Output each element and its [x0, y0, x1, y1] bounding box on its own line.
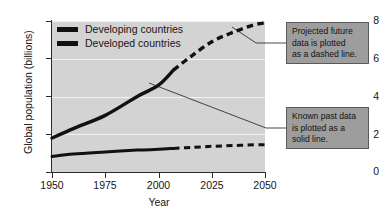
annotation-projected-line-2: data is plotted: [292, 38, 363, 50]
x-axis-title: Year: [52, 196, 266, 208]
annotation-known-past: Known past data is plotted as a solid li…: [286, 107, 369, 149]
y-tick-4: [46, 96, 52, 97]
x-tick-2025: [212, 172, 213, 178]
x-tick-label-2050: 2050: [242, 180, 288, 191]
annotation-known-line-1: Known past data: [292, 111, 363, 123]
gridline-4: [52, 97, 265, 98]
legend-swatch-developed: [57, 41, 78, 46]
legend-swatch-developing: [57, 27, 78, 32]
legend-item-developed: Developed countries: [57, 36, 217, 50]
x-tick-label-2025: 2025: [189, 180, 235, 191]
legend-label-developed: Developed countries: [85, 37, 181, 49]
y-tick-label-4: 4: [337, 91, 379, 102]
x-tick-2050: [265, 172, 266, 178]
y-axis-title: Global population (billions): [22, 12, 34, 172]
y-tick-8: [46, 21, 52, 22]
population-line-chart: Global population (billions) 8 6 4 2 0 1…: [0, 0, 379, 217]
x-tick-1950: [52, 172, 53, 178]
y-tick-2: [46, 134, 52, 135]
gridline-6: [52, 59, 265, 60]
x-tick-label-2000: 2000: [136, 180, 182, 191]
legend-label-developing: Developing countries: [85, 23, 183, 35]
y-tick-6: [46, 58, 52, 59]
annotation-known-line-3: solid line.: [292, 134, 363, 146]
legend: Developing countries Developed countries: [57, 22, 217, 50]
x-tick-2000: [159, 172, 160, 178]
annotation-projected-line-3: as a dashed line.: [292, 49, 363, 61]
annotation-projected-line-1: Projected future: [292, 26, 363, 38]
gridline-2: [52, 134, 265, 135]
x-tick-1975: [105, 172, 106, 178]
y-tick-label-0: 0: [337, 166, 379, 177]
annotation-projected-future: Projected future data is plotted as a da…: [286, 22, 369, 64]
x-tick-label-1950: 1950: [29, 180, 75, 191]
annotation-known-line-2: is plotted as a: [292, 123, 363, 135]
legend-item-developing: Developing countries: [57, 22, 217, 36]
x-tick-label-1975: 1975: [82, 180, 128, 191]
